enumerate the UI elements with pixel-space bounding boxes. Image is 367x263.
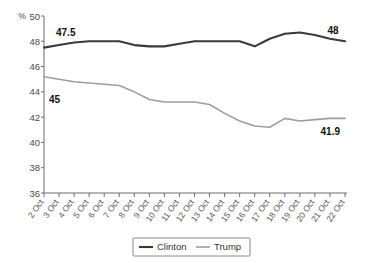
chart-container: % 3638404244464850 2 Oct3 Oct4 Oct5 Oct6… [0, 0, 367, 263]
y-axis-tick-label: 36 [29, 188, 40, 199]
y-axis-tick-label: 50 [29, 11, 40, 22]
y-axis-tick-label: 40 [29, 137, 40, 148]
y-axis-tick-label: 46 [29, 61, 40, 72]
clinton-end-value-label: 48 [327, 25, 339, 36]
legend-label-trump: Trump [214, 241, 241, 252]
x-axis-tick-marks [44, 193, 345, 197]
trump-start-value-label: 45 [49, 94, 61, 105]
x-axis-tick-labels: 2 Oct3 Oct4 Oct5 Oct6 Oct7 Oct8 Oct9 Oct… [26, 197, 347, 224]
clinton-start-value-label: 47.5 [56, 27, 76, 38]
trump-end-value-label: 41.9 [321, 126, 341, 137]
series-line-trump [44, 77, 345, 128]
y-axis-tick-label: 48 [29, 36, 40, 47]
y-axis-tick-label: 38 [29, 162, 40, 173]
y-axis-tick-label: 44 [29, 86, 40, 97]
y-axis-unit-label: % [18, 11, 26, 21]
y-axis-tick-label: 42 [29, 112, 40, 123]
y-axis-tick-labels: 3638404244464850 [29, 11, 40, 199]
series-line-clinton [44, 32, 345, 47]
chart-legend: Clinton Trump [133, 238, 250, 256]
poll-trend-line-chart: % 3638404244464850 2 Oct3 Oct4 Oct5 Oct6… [0, 0, 367, 263]
legend-label-clinton: Clinton [157, 241, 187, 252]
